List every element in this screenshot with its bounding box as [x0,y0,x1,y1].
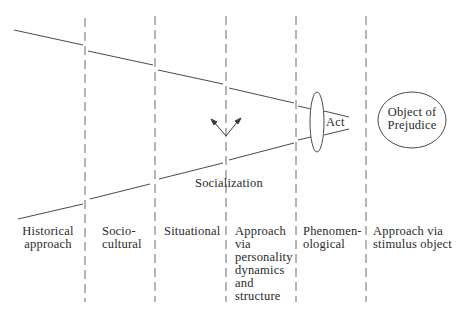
funnel-bottom-seg2 [90,184,150,199]
funnel-bottom-seg4 [229,143,294,160]
column-label-phenomenological: Phenomen- ological [303,225,362,251]
column-label-sociocultural: Socio- cultural [102,225,142,251]
funnel-top-seg2 [88,51,153,65]
socialization-label: Socialization [195,177,263,190]
act-label: Act [326,116,345,129]
act-wedge-bottom [324,129,349,135]
funnel-top-seg5 [298,106,311,109]
funnel-top-seg1 [14,30,83,45]
diagram-canvas [0,0,462,314]
funnel-top-seg3 [158,70,223,84]
object-of-prejudice-label: Object of Prejudice [382,106,442,132]
funnel-bottom-seg1 [18,204,83,219]
column-label-personality: Approach via personality dynamics and st… [235,225,293,303]
lens-ellipse [310,92,324,152]
column-label-situational: Situational [164,225,220,238]
funnel-bottom-seg5 [298,137,311,140]
column-label-historical: Historical approach [18,225,78,251]
funnel-top-seg4 [229,88,294,103]
column-label-stimulus-object: Approach via stimulus object [373,225,452,251]
